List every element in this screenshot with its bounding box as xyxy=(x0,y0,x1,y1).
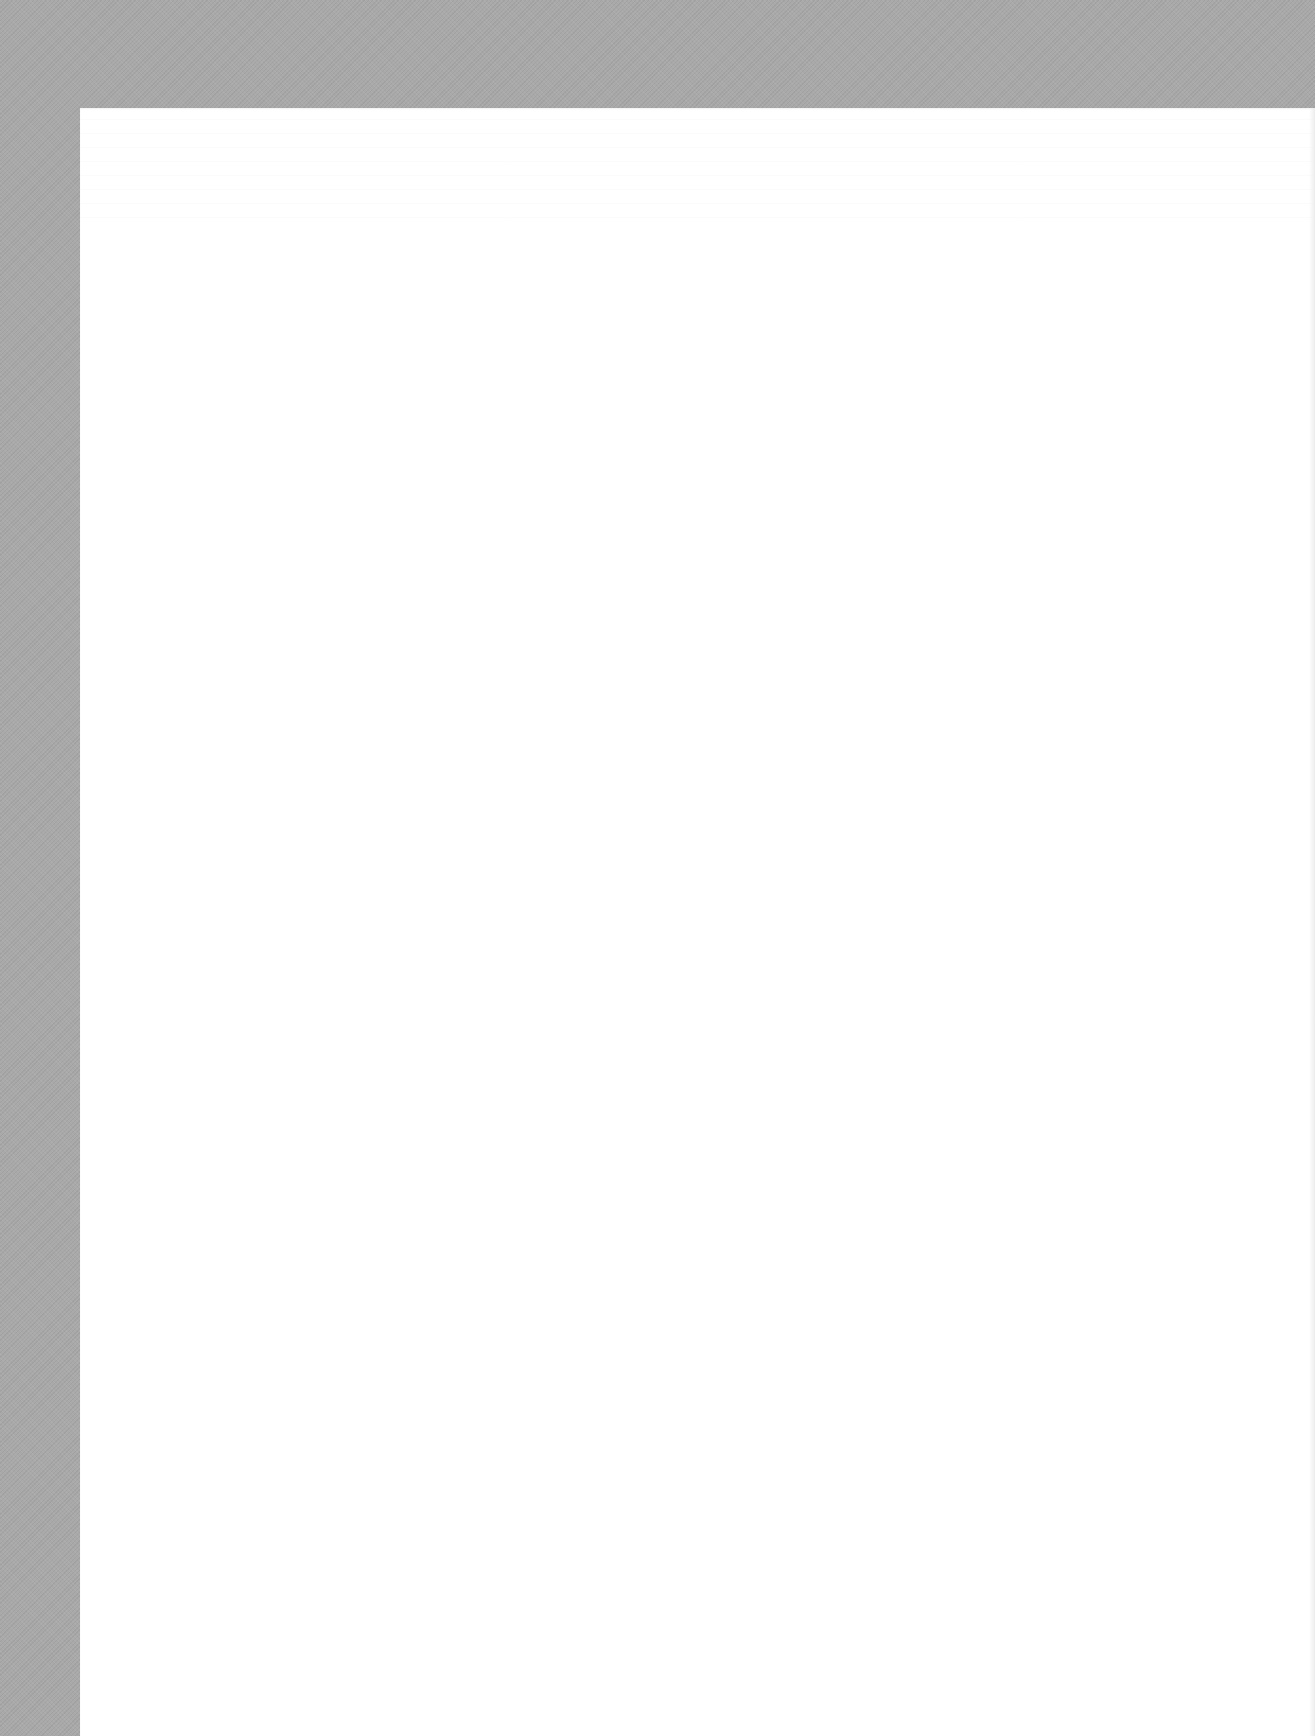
blank-page-sheet xyxy=(80,108,1315,1736)
page-edge-shadow xyxy=(1309,108,1315,1736)
scan-border-top xyxy=(0,0,1315,108)
scan-border-left xyxy=(0,0,80,1736)
